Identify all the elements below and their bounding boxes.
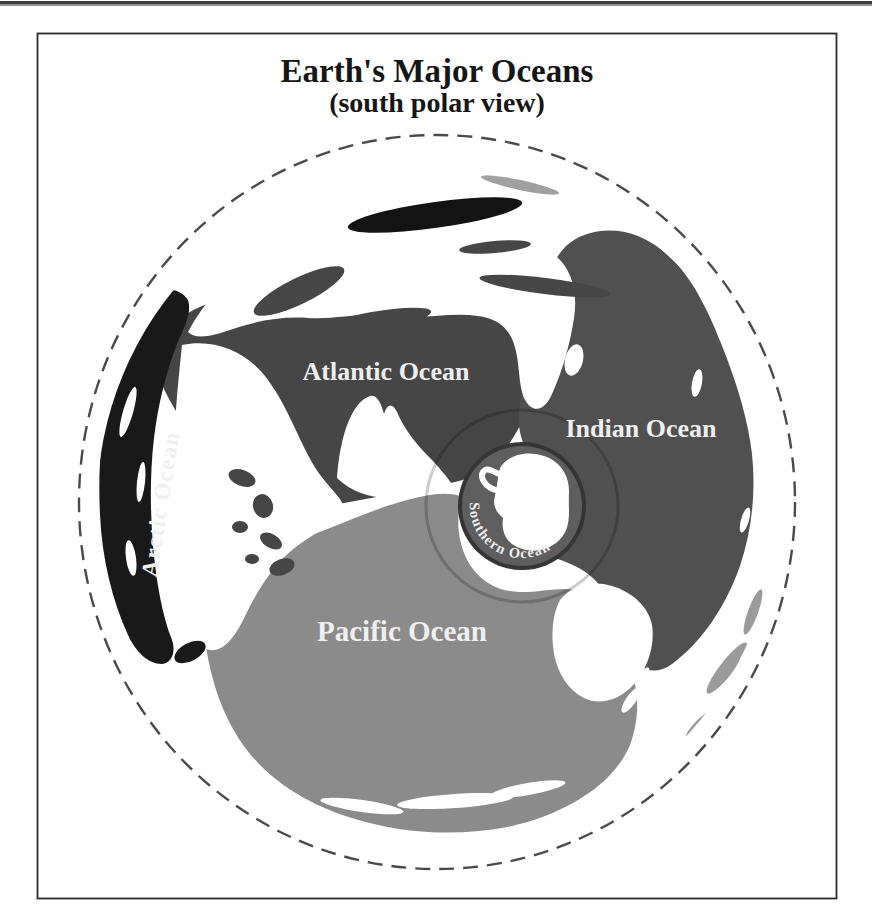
edge-streak	[683, 704, 724, 742]
top-rule-shadow	[0, 5, 872, 7]
figure-title: Earth's Major Oceans	[281, 53, 594, 89]
polar-ocean-map-figure: Earth's Major Oceans (south polar view)	[0, 0, 872, 923]
edge-streak	[740, 588, 766, 637]
label-pacific-ocean: Pacific Ocean	[317, 615, 487, 647]
bay-speckle	[245, 554, 259, 564]
edge-streak	[480, 172, 560, 198]
label-atlantic-ocean: Atlantic Ocean	[303, 357, 470, 386]
top-rule	[0, 1, 872, 5]
edge-streak	[265, 820, 346, 844]
figure-page: Earth's Major Oceans (south polar view)	[0, 0, 872, 923]
figure-subtitle: (south polar view)	[329, 87, 545, 118]
bay-speckle	[232, 521, 248, 533]
label-indian-ocean: Indian Ocean	[566, 414, 718, 443]
globe	[99, 172, 766, 844]
